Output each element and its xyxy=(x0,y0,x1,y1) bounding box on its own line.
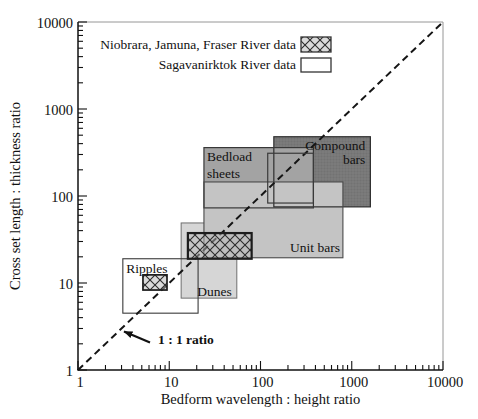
one-to-one-ratio-label: 1 : 1 ratio xyxy=(158,332,214,347)
label-bedload-sheets-line-1: sheets xyxy=(207,166,240,181)
x-tick-label-1: 10 xyxy=(164,374,179,390)
legend-swatch-crosshatch xyxy=(301,37,331,52)
ripples-data-crosshatch xyxy=(143,275,167,290)
label-bedload-sheets-line-0: Bedload xyxy=(207,149,252,164)
unit-bars-data-crosshatch xyxy=(188,233,252,259)
y-tick-label-2: 100 xyxy=(51,189,73,205)
label-ripples: Ripples xyxy=(126,261,167,276)
x-axis-label: Bedform wavelength : height ratio xyxy=(161,391,361,407)
x-tick-label-4: 10000 xyxy=(427,374,463,390)
label-unit-bars: Unit bars xyxy=(290,240,340,255)
label-compound-bars-line-0: Compound xyxy=(305,138,365,153)
x-tick-label-2: 100 xyxy=(252,374,274,390)
y-tick-label-4: 10000 xyxy=(37,15,73,31)
legend-label-1: Sagavanirktok River data xyxy=(159,57,296,72)
legend-swatch-open xyxy=(301,58,331,72)
label-compound-bars-line-1: bars xyxy=(343,152,366,167)
label-dunes: Dunes xyxy=(197,284,232,299)
x-tick-label-3: 1000 xyxy=(339,374,368,390)
legend-label-0: Niobrara, Jamuna, Fraser River data xyxy=(100,37,296,52)
x-tick-label-0: 1 xyxy=(76,374,83,390)
y-tick-label-1: 10 xyxy=(59,276,74,292)
y-axis-label: Cross set length : thickness ratio xyxy=(7,102,23,290)
y-tick-label-0: 1 xyxy=(66,363,73,379)
one-to-one-arrow xyxy=(124,332,150,343)
y-tick-label-3: 1000 xyxy=(44,102,73,118)
legend: Niobrara, Jamuna, Fraser River dataSagav… xyxy=(100,37,331,72)
chart-svg: 110100100010000110100100010000Bedform wa… xyxy=(0,0,478,419)
log-log-bedform-chart: 110100100010000110100100010000Bedform wa… xyxy=(0,0,478,419)
